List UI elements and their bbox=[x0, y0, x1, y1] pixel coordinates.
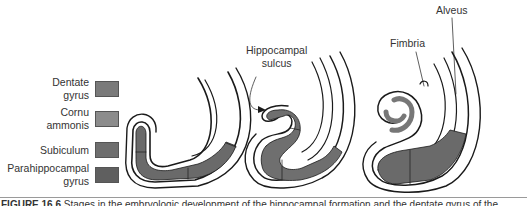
hippocampal-sulcus-label: Hippocampal sulcus bbox=[246, 44, 307, 70]
stage-1-diagram bbox=[126, 68, 251, 188]
alveus-label: Alveus bbox=[436, 4, 468, 17]
hippocampal-sulcus-label-line2: sulcus bbox=[246, 57, 307, 70]
figure-caption-label: FIGURE 16.6 bbox=[1, 199, 61, 206]
caption-divider bbox=[0, 197, 527, 198]
hippocampal-sulcus-label-line1: Hippocampal bbox=[246, 44, 307, 57]
stage-2-diagram bbox=[245, 52, 355, 188]
figure-caption-text: Stages in the embryologic development of… bbox=[64, 199, 507, 206]
figure-caption: FIGURE 16.6 Stages in the embryologic de… bbox=[1, 199, 506, 206]
fimbria-label: Fimbria bbox=[390, 37, 425, 50]
hippocampus-development-diagram bbox=[0, 0, 527, 196]
